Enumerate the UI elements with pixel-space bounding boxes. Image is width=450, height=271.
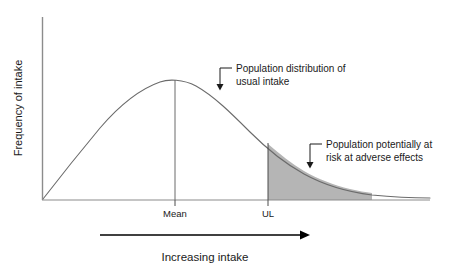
population-at-risk-label-line1: Population potentially at — [326, 139, 432, 150]
x-axis-caption: Increasing intake — [162, 251, 249, 263]
figure-container: Mean UL Frequency of intake Population d… — [0, 0, 450, 271]
tick-label-mean: Mean — [163, 208, 187, 219]
population-distribution-label-line1: Population distribution of — [236, 63, 346, 74]
population-at-risk-label-line2: risk at adverse effects — [326, 152, 423, 163]
population-distribution-label-line2: usual intake — [236, 76, 290, 87]
tick-label-ul: UL — [262, 208, 274, 219]
intake-distribution-chart: Mean UL Frequency of intake Population d… — [0, 0, 450, 271]
chart-background — [0, 0, 450, 271]
y-axis-label: Frequency of intake — [12, 60, 24, 157]
